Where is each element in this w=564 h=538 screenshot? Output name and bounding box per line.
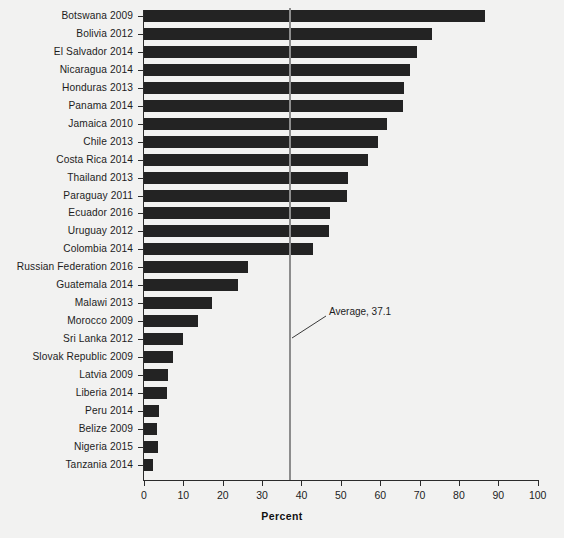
bar [144,333,183,345]
y-axis-tick [138,375,143,376]
x-axis-tick [459,481,460,486]
category-label: Guatemala 2014 [56,279,133,291]
bar [144,190,347,202]
x-axis-tick [380,481,381,486]
y-axis-tick [138,160,143,161]
average-annotation-label: Average, 37.1 [329,306,391,317]
x-axis-tick-label: 10 [163,489,203,501]
y-axis-tick [138,411,143,412]
y-axis-tick [138,249,143,250]
y-axis-tick [138,106,143,107]
x-axis-tick-label: 100 [518,489,558,501]
bar [144,154,368,166]
x-axis-tick-label: 20 [203,489,243,501]
category-label: Sri Lanka 2012 [63,333,133,345]
x-axis-tick-label: 50 [321,489,361,501]
x-axis-title: Percent [0,510,564,522]
bar [144,118,387,130]
bar [144,315,198,327]
category-label: Nicaragua 2014 [60,64,133,76]
y-axis-tick [138,429,143,430]
bar [144,10,485,22]
y-axis-tick [138,124,143,125]
bar [144,261,248,273]
x-axis-tick-label: 40 [281,489,321,501]
category-label: Belize 2009 [79,423,133,435]
y-axis-tick [138,142,143,143]
average-leader-line [292,310,332,340]
category-label: Latvia 2009 [79,369,133,381]
category-label: Malawi 2013 [75,297,133,309]
x-axis-tick [262,481,263,486]
category-label: El Salvador 2014 [54,46,133,58]
y-axis-tick [138,52,143,53]
category-label: Thailand 2013 [67,172,133,184]
x-axis-tick-label: 80 [439,489,479,501]
bar [144,441,158,453]
x-axis-tick-label: 60 [360,489,400,501]
x-axis-tick [420,481,421,486]
y-axis-tick [138,285,143,286]
plot-area [144,10,538,476]
category-label: Uruguay 2012 [68,225,133,237]
x-axis-tick [223,481,224,486]
category-axis-labels: Botswana 2009Bolivia 2012El Salvador 201… [0,10,139,476]
y-axis-tick [138,34,143,35]
y-axis-tick [138,393,143,394]
y-axis-tick [138,321,143,322]
bar [144,423,157,435]
bar-chart: Botswana 2009Bolivia 2012El Salvador 201… [0,0,564,538]
x-axis-tick [498,481,499,486]
y-axis-tick [138,16,143,17]
category-label: Liberia 2014 [76,387,133,399]
category-label: Honduras 2013 [62,82,133,94]
y-axis-tick [138,213,143,214]
category-label: Tanzania 2014 [65,459,133,471]
x-axis-tick [538,481,539,486]
category-label: Jamaica 2010 [68,118,133,130]
category-label: Chile 2013 [83,136,133,148]
bar [144,243,313,255]
category-label: Peru 2014 [85,405,133,417]
x-axis-tick [144,481,145,486]
x-axis-tick-label: 30 [242,489,282,501]
bar [144,297,212,309]
y-axis-tick [138,70,143,71]
x-axis-tick-label: 70 [400,489,440,501]
x-axis-tick [183,481,184,486]
bar [144,207,330,219]
x-axis-tick-label: 90 [478,489,518,501]
y-axis-tick [138,88,143,89]
x-axis-tick-label: 0 [124,489,164,501]
y-axis-tick [138,303,143,304]
category-label: Morocco 2009 [67,315,133,327]
category-label: Colombia 2014 [63,243,133,255]
bar [144,82,404,94]
bar [144,279,238,291]
y-axis-tick [138,267,143,268]
category-label: Ecuador 2016 [68,207,133,219]
average-reference-line [289,8,291,480]
x-axis-tick [341,481,342,486]
bar [144,100,403,112]
y-axis-tick [138,465,143,466]
bar [144,405,159,417]
bar [144,369,168,381]
bar [144,351,173,363]
y-axis-tick [138,339,143,340]
y-axis-tick [138,178,143,179]
category-label: Paraguay 2011 [63,190,133,202]
category-label: Panama 2014 [68,100,133,112]
x-axis-tick [301,481,302,486]
category-label: Bolivia 2012 [76,28,133,40]
bar [144,225,329,237]
bar [144,459,153,471]
bar [144,172,348,184]
y-axis-tick [138,196,143,197]
bar [144,64,410,76]
y-axis-tick [138,447,143,448]
category-label: Costa Rica 2014 [56,154,133,166]
bar [144,46,417,58]
category-label: Russian Federation 2016 [17,261,133,273]
y-axis-tick [138,357,143,358]
